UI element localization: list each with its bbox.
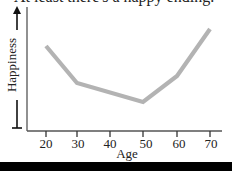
x-axis-label: Age bbox=[116, 146, 138, 162]
y-axis-label: Happiness bbox=[4, 38, 20, 92]
x-tick-label-70: 70 bbox=[205, 136, 218, 152]
x-tick-label-50: 50 bbox=[140, 136, 153, 152]
x-tick-label-60: 60 bbox=[173, 136, 186, 152]
happiness-line bbox=[46, 29, 210, 102]
x-tick-label-30: 30 bbox=[72, 136, 85, 152]
bottom-border bbox=[0, 162, 232, 171]
x-tick-label-20: 20 bbox=[40, 136, 53, 152]
x-tick-label-40: 40 bbox=[104, 136, 117, 152]
